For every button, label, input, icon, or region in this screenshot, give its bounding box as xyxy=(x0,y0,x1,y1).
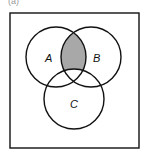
label-b: B xyxy=(93,52,100,64)
label-c: C xyxy=(70,98,78,110)
figure-tag: (a) xyxy=(8,0,19,6)
venn-diagram: (a) A B C xyxy=(0,0,146,153)
label-a: A xyxy=(44,52,52,64)
